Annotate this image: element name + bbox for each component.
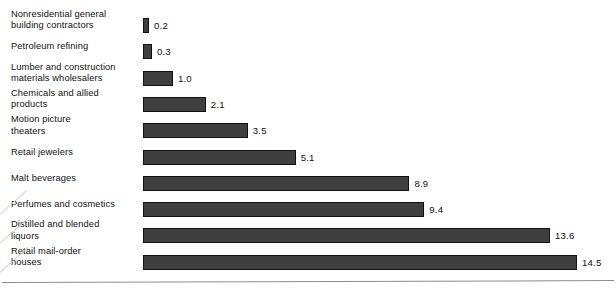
bar: [143, 202, 424, 217]
bar-value-label: 13.6: [555, 228, 574, 243]
bar-row: Nonresidential general building contract…: [0, 13, 616, 39]
bar-track: [143, 228, 550, 243]
bar-track: [143, 202, 424, 217]
bar-track: [143, 123, 248, 138]
bar: [143, 18, 149, 33]
bar-track: [143, 71, 173, 86]
bar-value-label: 14.5: [582, 255, 601, 270]
bar-track: [143, 150, 296, 165]
bar: [143, 44, 152, 59]
bar-category-label: Distilled and blended liquors: [11, 219, 139, 242]
bar-category-label: Petroleum refining: [11, 41, 139, 52]
bar-track: [143, 97, 206, 112]
bar-value-label: 2.1: [211, 97, 225, 112]
bar-category-label: Motion picture theaters: [11, 114, 139, 137]
bar-row: Malt beverages8.9: [0, 171, 616, 197]
bar-value-label: 0.2: [154, 18, 168, 33]
bar: [143, 97, 206, 112]
bar-category-label: Retail jewelers: [11, 147, 139, 158]
bar-category-label: Retail mail-order houses: [11, 246, 139, 269]
bar-category-label: Chemicals and allied products: [11, 88, 139, 111]
bar: [143, 71, 173, 86]
bar: [143, 255, 577, 270]
bar-category-label: Lumber and construction materials wholes…: [11, 62, 139, 85]
bar: [143, 228, 550, 243]
bar-row: Retail jewelers5.1: [0, 145, 616, 171]
bar-value-label: 1.0: [178, 71, 192, 86]
bar-value-label: 3.5: [253, 123, 267, 138]
bar-track: [143, 44, 152, 59]
bar-value-label: 5.1: [301, 150, 315, 165]
bar-value-label: 9.4: [429, 202, 443, 217]
bar-row: Retail mail-order houses14.5: [0, 250, 616, 276]
bar: [143, 176, 409, 191]
bar: [143, 123, 248, 138]
bar-value-label: 0.3: [157, 44, 171, 59]
bar-category-label: Nonresidential general building contract…: [11, 9, 139, 32]
bar-track: [143, 176, 409, 191]
bar-value-label: 8.9: [414, 176, 428, 191]
bar-category-label: Perfumes and cosmetics: [11, 199, 139, 210]
bar-row: Motion picture theaters3.5: [0, 118, 616, 144]
bar: [143, 150, 296, 165]
bar-track: [143, 18, 149, 33]
bar-category-label: Malt beverages: [11, 173, 139, 184]
bar-track: [143, 255, 577, 270]
bar-chart: Nonresidential general building contract…: [0, 0, 616, 294]
plot-area: Nonresidential general building contract…: [0, 0, 616, 294]
